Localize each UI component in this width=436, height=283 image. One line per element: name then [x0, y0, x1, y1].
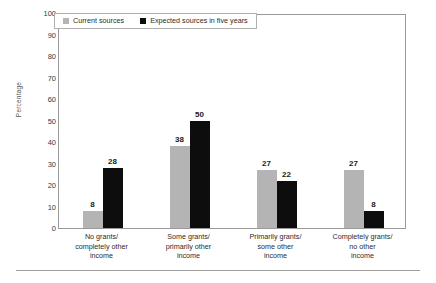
- bar-group-3: 278: [344, 15, 384, 228]
- y-tick-10: 10: [34, 204, 56, 212]
- legend-entry-0: Current sources: [63, 17, 124, 24]
- x-category-label-3: Completely grants/no otherincome: [315, 232, 410, 261]
- bar-group-2: 2722: [257, 15, 297, 228]
- bar-3-0: [344, 170, 364, 228]
- y-tick-60: 60: [34, 96, 56, 104]
- x-category-line: Completely grants/: [315, 232, 410, 242]
- x-category-line: some other: [228, 242, 323, 252]
- bar-value-label-0-0: 8: [90, 201, 94, 209]
- x-category-line: income: [141, 251, 236, 261]
- x-category-line: Primarily grants/: [228, 232, 323, 242]
- bar-group-0: 828: [83, 15, 123, 228]
- bar-group-1: 3850: [170, 15, 210, 228]
- x-category-line: income: [54, 251, 149, 261]
- legend-label-0: Current sources: [73, 17, 124, 24]
- y-tick-30: 30: [34, 161, 56, 169]
- bar-2-1: [277, 181, 297, 228]
- y-tick-70: 70: [34, 75, 56, 83]
- bar-value-label-2-0: 27: [262, 160, 271, 168]
- bar-value-label-3-0: 27: [349, 160, 358, 168]
- bar-1-0: [170, 146, 190, 228]
- x-category-line: completely other: [54, 242, 149, 252]
- plot-inner: 82838502722278: [59, 15, 405, 228]
- bar-value-label-3-1: 8: [371, 201, 375, 209]
- y-tick-90: 90: [34, 32, 56, 40]
- bar-0-0: [83, 211, 103, 228]
- legend-swatch-icon-0: [63, 18, 69, 24]
- y-tick-50: 50: [34, 118, 56, 126]
- bar-1-1: [190, 121, 210, 229]
- x-category-label-0: No grants/completely otherincome: [54, 232, 149, 261]
- legend-swatch-icon-1: [140, 18, 146, 24]
- x-axis-category-labels: No grants/completely otherincomeSome gra…: [58, 232, 406, 272]
- bar-value-label-1-0: 38: [175, 136, 184, 144]
- y-tick-40: 40: [34, 139, 56, 147]
- x-category-line: income: [315, 251, 410, 261]
- y-tick-100: 100: [34, 10, 56, 18]
- bar-value-label-2-1: 22: [282, 171, 291, 179]
- y-tick-20: 20: [34, 182, 56, 190]
- y-axis-title: Percentage: [15, 60, 22, 140]
- x-category-line: Some grants/: [141, 232, 236, 242]
- x-category-label-1: Some grants/primarily otherincome: [141, 232, 236, 261]
- bar-value-label-1-1: 50: [195, 111, 204, 119]
- chart-legend: Current sourcesExpected sources in five …: [54, 13, 257, 29]
- legend-entry-1: Expected sources in five years: [140, 17, 247, 24]
- chart-figure: Percentage 1009080706050403020100 828385…: [0, 0, 436, 283]
- bar-groups: 82838502722278: [59, 15, 405, 228]
- bar-3-1: [364, 211, 384, 228]
- y-tick-0: 0: [34, 225, 56, 233]
- x-category-line: no other: [315, 242, 410, 252]
- bar-value-label-0-1: 28: [108, 158, 117, 166]
- legend-label-1: Expected sources in five years: [150, 17, 247, 24]
- x-category-line: primarily other: [141, 242, 236, 252]
- y-axis-tick-labels: 1009080706050403020100: [34, 14, 56, 229]
- x-category-line: No grants/: [54, 232, 149, 242]
- footer-divider: [16, 270, 420, 271]
- bar-0-1: [103, 168, 123, 228]
- plot-area: 82838502722278: [58, 14, 406, 229]
- x-category-label-2: Primarily grants/some otherincome: [228, 232, 323, 261]
- x-category-line: income: [228, 251, 323, 261]
- y-tick-80: 80: [34, 53, 56, 61]
- bar-2-0: [257, 170, 277, 228]
